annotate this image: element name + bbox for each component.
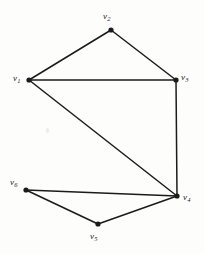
vertex-label-v5: v5 — [90, 232, 97, 241]
graph-edge-v6-v4 — [26, 190, 177, 196]
vertex-label-v4: v4 — [183, 193, 190, 202]
graph-edge-v2-v3 — [111, 30, 176, 80]
scan-artifact — [46, 128, 49, 133]
graph-edge-v5-v6 — [26, 190, 98, 224]
graph-vertex-v4 — [174, 193, 179, 198]
graph-vertex-v6 — [23, 187, 28, 192]
graph-vertex-v1 — [26, 77, 31, 82]
graph-figure: v1v2v3v4v5v6 — [0, 0, 204, 254]
graph-vertex-v3 — [173, 77, 178, 82]
vertex-label-v1: v1 — [13, 74, 20, 83]
graph-edge-v1-v4 — [29, 80, 177, 196]
vertex-label-v2: v2 — [103, 12, 110, 21]
edge-layer — [26, 30, 177, 224]
vertex-label-v3: v3 — [181, 73, 188, 82]
graph-edge-v3-v4 — [176, 80, 177, 196]
graph-vertex-v5 — [95, 221, 100, 226]
graph-edge-v1-v2 — [29, 30, 111, 80]
vertex-label-v6: v6 — [10, 178, 17, 187]
vertex-layer — [23, 27, 179, 226]
graph-vertex-v2 — [108, 27, 113, 32]
graph-canvas — [0, 0, 204, 254]
graph-edge-v4-v5 — [98, 196, 177, 224]
